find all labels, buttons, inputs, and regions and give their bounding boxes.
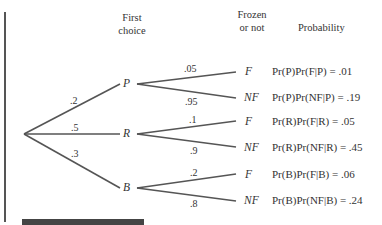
header-second-line: choice: [106, 24, 158, 37]
edge-label-P-NF: .95: [185, 96, 198, 107]
edge-R-NF: [137, 134, 236, 147]
leaf-R-F: F: [245, 115, 252, 127]
edge-label-B-NF: .8: [190, 198, 198, 209]
edge-root-B: [24, 134, 120, 188]
probability-R-F: Pr(R)Pr(F|R) = .05: [272, 115, 355, 127]
leaf-R-NF: NF: [244, 141, 259, 153]
edge-label-root-P: .2: [70, 95, 78, 106]
edge-label-root-R: .5: [71, 122, 79, 133]
probability-B-NF: Pr(B)Pr(NF|B) = .24: [272, 194, 363, 206]
edge-B-F: [137, 174, 236, 188]
header-first-choice: First choice: [106, 11, 158, 37]
edge-label-P-F: .05: [184, 63, 197, 74]
node-P: P: [123, 77, 130, 89]
header-probability: Probability: [298, 21, 345, 34]
probability-R-NF: Pr(R)Pr(NF|R) = .45: [272, 141, 363, 153]
header-first-line: Frozen: [227, 8, 277, 21]
header-first-line: First: [106, 11, 158, 24]
node-R: R: [123, 127, 130, 139]
probability-B-F: Pr(B)Pr(F|B) = .06: [272, 168, 355, 180]
edge-label-R-NF: .9: [190, 145, 198, 156]
edge-label-root-B: .3: [71, 148, 79, 159]
leaf-P-F: F: [245, 65, 252, 77]
leaf-B-F: F: [245, 168, 252, 180]
edge-label-R-F: .1: [189, 114, 197, 125]
node-B: B: [123, 181, 130, 193]
bottom-bar: [22, 219, 144, 225]
leaf-B-NF: NF: [244, 194, 259, 206]
probability-P-F: Pr(P)Pr(F|P) = .01: [272, 65, 352, 77]
header-second-line: or not: [227, 21, 277, 34]
edge-R-F: [137, 121, 236, 134]
leaf-P-NF: NF: [244, 91, 259, 103]
edge-label-B-F: .2: [190, 167, 198, 178]
probability-P-NF: Pr(P)Pr(NF|P) = .19: [272, 91, 360, 103]
edge-B-NF: [137, 188, 236, 201]
header-frozen-or-not: Frozen or not: [227, 8, 277, 34]
